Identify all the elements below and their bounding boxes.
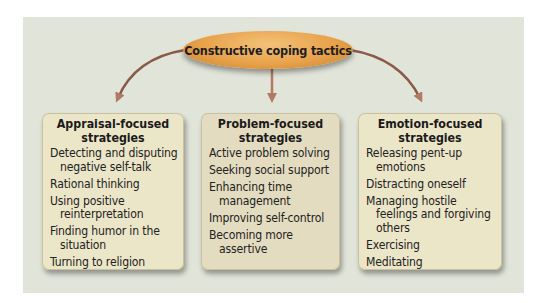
list-item: Meditating (366, 256, 496, 270)
category-box-problem: Problem-focused strategies Active proble… (201, 113, 340, 270)
list-item: Managing hostile feelings and forgiving … (366, 195, 496, 236)
category-box-emotion: Emotion-focused strategies Releasing pen… (358, 113, 502, 270)
category-title: Appraisal-focused strategies (42, 113, 184, 147)
list-item: Turning to religion (50, 256, 178, 270)
category-title: Emotion-focused strategies (358, 113, 502, 147)
arrow-to-appraisal (118, 50, 185, 98)
list-item: Exercising (366, 239, 496, 253)
list-item: Finding humor in the situation (50, 225, 178, 252)
list-item: Using positive reinterpretation (50, 195, 178, 222)
list-item: Improving self-control (209, 212, 334, 226)
list-item: Rational thinking (50, 178, 178, 192)
root-node: Constructive coping tactics (183, 31, 353, 69)
list-item: Seeking social support (209, 164, 334, 178)
arrow-to-emotion (350, 50, 420, 98)
list-item: Active problem solving (209, 147, 334, 161)
list-item: Detecting and disputing negative self-ta… (50, 147, 178, 174)
list-item: Becoming more assertive (209, 229, 334, 256)
category-title: Problem-focused strategies (201, 113, 340, 147)
list-item: Enhancing time management (209, 181, 334, 208)
root-label: Constructive coping tactics (184, 43, 351, 58)
list-item: Distracting oneself (366, 178, 496, 192)
category-box-appraisal: Appraisal-focused strategies Detecting a… (42, 113, 184, 270)
list-item: Releasing pent-up emotions (366, 147, 496, 174)
